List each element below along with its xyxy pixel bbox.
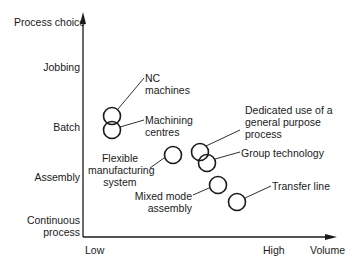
fms-line2: manufacturing — [88, 164, 152, 176]
mm-leader — [193, 188, 209, 195]
y-level-assembly: Assembly — [34, 171, 80, 183]
mm-line1: Mixed mode — [135, 190, 192, 202]
fms-line1: Flexible — [88, 152, 152, 164]
mm-line2: assembly — [135, 202, 192, 214]
ded-line2: general purpose — [245, 116, 333, 128]
nc-line2: machines — [145, 84, 190, 96]
fms-label: Flexible manufacturing system — [88, 152, 152, 188]
x-tick-high: High — [263, 244, 285, 256]
fms-circle — [165, 147, 182, 164]
x-tick-low: Low — [85, 244, 104, 256]
y-level-jobbing: Jobbing — [43, 61, 80, 73]
y-level-continuous-line2: process — [27, 226, 80, 238]
mc-leader — [120, 120, 144, 127]
group-technology-label: Group technology — [241, 147, 324, 159]
nc-leader — [118, 78, 144, 109]
nc-machines-label: NC machines — [145, 72, 190, 96]
transfer-line-circle — [229, 194, 246, 211]
mc-line1: Machining — [145, 114, 193, 126]
nc-line1: NC — [145, 72, 190, 84]
dedicated-label: Dedicated use of a general purpose proce… — [245, 104, 333, 140]
y-axis-title: Process choice — [14, 16, 85, 28]
gt-leader — [215, 152, 240, 159]
ded-leader — [206, 130, 240, 146]
x-axis-title: Volume — [310, 244, 345, 256]
tl-leader — [245, 186, 271, 198]
ded-line3: process — [245, 128, 333, 140]
mixed-mode-label: Mixed mode assembly — [135, 190, 192, 214]
y-level-continuous-line1: Continuous — [27, 214, 80, 226]
transfer-line-label: Transfer line — [272, 180, 330, 192]
x-axis-arrow-icon — [325, 234, 337, 240]
ded-line1: Dedicated use of a — [245, 104, 333, 116]
mc-line2: centres — [145, 126, 193, 138]
mixed-mode-circle — [210, 177, 227, 194]
y-level-continuous: Continuous process — [27, 214, 80, 238]
fms-line3: system — [88, 176, 152, 188]
machining-centres-label: Machining centres — [145, 114, 193, 138]
y-level-batch: Batch — [53, 121, 80, 133]
